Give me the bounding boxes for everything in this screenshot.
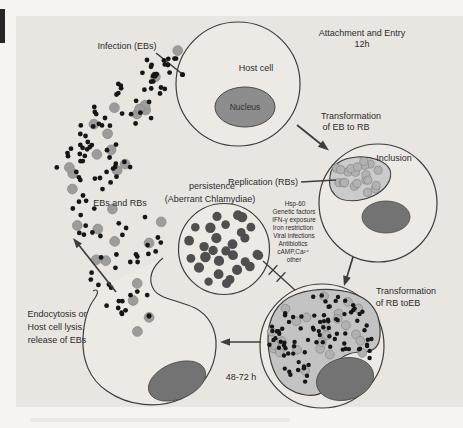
ebs-and-rbs-label: EBs and RBs xyxy=(93,198,147,208)
scan-smudge xyxy=(0,9,5,43)
factor-camp-ca: cAMP,Ca²⁺ xyxy=(277,248,308,255)
endocytosis-label-2: Host cell lysis, xyxy=(27,322,84,332)
nucleus-label: Nucleus xyxy=(230,102,261,112)
inclusion-cell-nucleus xyxy=(362,201,410,233)
inclusion-label: Inclusion xyxy=(376,153,412,163)
endocytosis-label-1: Endocytosis or xyxy=(27,309,86,319)
attachment-label: Attachment and Entry xyxy=(319,28,406,38)
factor-antibiotics: Antibiotics xyxy=(278,240,307,247)
rb-to-eb-label-2: of RB toEB xyxy=(376,298,421,308)
caption-streak xyxy=(30,418,290,422)
infection-label: Infection (EBs) xyxy=(97,41,156,51)
replication-label: Replication (RBs) xyxy=(228,177,298,187)
factor-iron: Iron restriction xyxy=(273,224,314,231)
host-cell-label: Host cell xyxy=(239,63,274,73)
rb-to-eb-label-1: Transformation xyxy=(376,286,436,296)
factor-genetic: Genetic factors xyxy=(273,208,316,215)
factor-viral: Viral infections xyxy=(273,232,314,239)
persistence-label-1: persistence xyxy=(189,181,235,191)
chlamydia-life-cycle-diagram: Infection (EBs) Attachment and Entry 12h… xyxy=(0,0,463,428)
factor-ifn: IFN-γ exposure xyxy=(272,216,316,224)
duration-label: 48-72 h xyxy=(226,372,257,382)
factor-other: other xyxy=(287,256,302,263)
persistence-label-2: (Aberrant Chlamydiae) xyxy=(165,194,256,204)
eb-to-rb-label-2: of EB to RB xyxy=(322,122,369,132)
eb-to-rb-label-1: Transformation xyxy=(321,111,381,121)
factor-hsp60: Hsp-60 xyxy=(285,200,306,208)
endocytosis-label-3: release of EBs xyxy=(28,335,87,345)
attachment-time-label: 12h xyxy=(354,39,369,49)
host-cell-circle xyxy=(176,22,300,146)
